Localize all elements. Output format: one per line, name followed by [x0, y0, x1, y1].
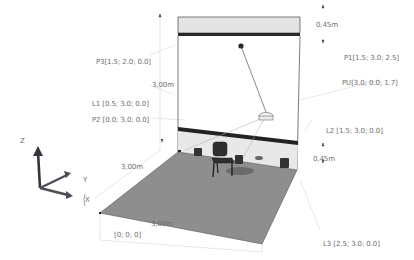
width-dimension: 3,00m: [151, 220, 173, 228]
top-band-dimension: 0,45m: [316, 21, 338, 29]
label-l1: L1 [0.5; 3.0; 0.0]: [92, 100, 149, 108]
axis-z-label: Z: [20, 137, 25, 145]
origin-label: [0; 0; 0]: [114, 231, 141, 239]
label-l2: L2 [1.5; 3.0; 0.0]: [326, 127, 383, 135]
label-pu: PU[3.0; 0.0; 1.7]: [342, 79, 398, 87]
axis-gizmo: [33, 146, 85, 206]
label-p2: P2 [0.0; 3.0; 0.0]: [92, 116, 149, 124]
axis-y-label: Y: [83, 176, 87, 184]
label-p1: P1[1.5; 3.0; 2.5]: [344, 54, 399, 62]
height-dimension: 3,00m: [152, 81, 174, 89]
back-wall: [178, 17, 300, 170]
axis-x-label: X: [85, 196, 90, 204]
label-l3: L3 [2.5; 3.0; 0.0]: [323, 240, 380, 248]
bottom-band-dimension: 0,45m: [313, 155, 335, 163]
label-p3: P3[1.5; 2.0; 0.0]: [96, 58, 151, 66]
depth-dimension: 3,00m: [121, 163, 143, 171]
